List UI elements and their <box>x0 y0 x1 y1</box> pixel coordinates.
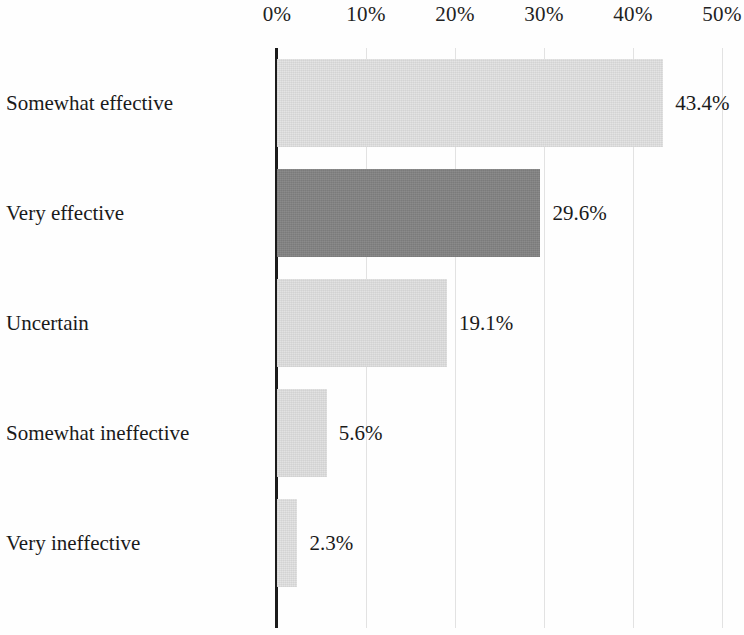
category-label: Uncertain <box>6 268 89 378</box>
bar-texture <box>277 389 327 477</box>
value-label: 2.3% <box>309 488 353 598</box>
x-tick-label: 20% <box>435 2 474 27</box>
bar <box>277 499 297 587</box>
bar <box>277 169 540 257</box>
category-labels-column: Somewhat effectiveVery effectiveUncertai… <box>0 48 270 628</box>
bar-row: 2.3% <box>277 488 722 598</box>
category-label: Very ineffective <box>6 488 140 598</box>
bar-row: 5.6% <box>277 378 722 488</box>
bars-layer: 43.4%29.6%19.1%5.6%2.3% <box>277 48 722 628</box>
bar-texture <box>277 499 297 587</box>
value-label: 5.6% <box>339 378 383 488</box>
category-label: Somewhat effective <box>6 48 173 158</box>
bar <box>277 279 447 367</box>
bar-texture <box>277 59 663 147</box>
category-label: Somewhat ineffective <box>6 378 189 488</box>
x-tick-label: 0% <box>263 2 292 27</box>
x-tick-label: 50% <box>702 2 741 27</box>
bar-row: 19.1% <box>277 268 722 378</box>
bar-chart: 0%10%20%30%40%50% Somewhat effectiveVery… <box>0 0 744 635</box>
bar-texture <box>277 169 540 257</box>
value-label: 19.1% <box>459 268 513 378</box>
value-label: 43.4% <box>675 48 729 158</box>
bar-row: 29.6% <box>277 158 722 268</box>
bar <box>277 389 327 477</box>
category-label: Very effective <box>6 158 124 268</box>
x-tick-label: 10% <box>346 2 385 27</box>
bar-texture <box>277 279 447 367</box>
bar <box>277 59 663 147</box>
x-tick-label: 40% <box>613 2 652 27</box>
bar-row: 43.4% <box>277 48 722 158</box>
x-tick-label: 30% <box>524 2 563 27</box>
value-label: 29.6% <box>552 158 606 268</box>
